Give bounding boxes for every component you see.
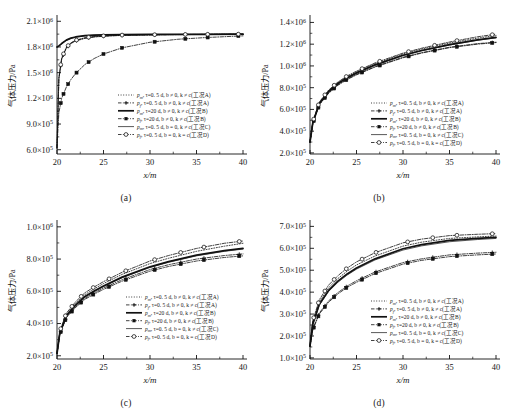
- data-marker: [374, 250, 378, 254]
- data-marker: [312, 117, 316, 121]
- legend-item-pf-D[interactable]: pf, τ=0. 5 d, b = 0, k = c(工况D): [371, 140, 462, 148]
- data-marker: [406, 262, 409, 265]
- data-marker: [345, 79, 348, 82]
- legend-item-pf-B[interactable]: pf, τ=20 d, b ≠ 0, k ≠ c(工况B): [371, 322, 459, 330]
- y-tick-label: 2.0×105: [279, 148, 306, 158]
- data-marker: [344, 75, 348, 79]
- x-axis-title: x/m: [143, 170, 157, 180]
- legend-label-pf-A: pf, τ=0. 5 d, b ≠ 0, k ≠ c(工况A): [136, 100, 209, 108]
- legend-label-pf-B: pf, τ=20 d, b ≠ 0, k ≠ c(工况B): [144, 318, 214, 326]
- data-marker: [120, 33, 124, 37]
- legend-item-pm-B[interactable]: pm, τ=20 d, b ≠ 0, k ≠ c(工况B): [371, 116, 461, 124]
- y-tick-label: 2.0×105: [26, 351, 53, 361]
- data-marker: [345, 286, 348, 289]
- data-marker: [237, 240, 241, 244]
- data-marker: [62, 52, 66, 56]
- legend-item-pm-A[interactable]: pm, τ=0. 5 d, b ≠ 0, k ≠ c(工况A): [371, 100, 464, 108]
- data-marker: [431, 257, 434, 260]
- legend-label-pf-B: pf, τ=20 d, b ≠ 0, k ≠ c(工况B): [136, 116, 206, 124]
- legend-item-pf-D[interactable]: pf, τ=0. 5 d, b = 0, k = c(工况D): [118, 132, 209, 140]
- data-marker: [433, 43, 437, 47]
- legend-item-pf-B[interactable]: pf, τ=20 d, b ≠ 0, k ≠ c(工况B): [118, 116, 206, 124]
- data-marker: [87, 35, 91, 39]
- x-tick-label: 40: [492, 363, 500, 372]
- legend-item-pf-A[interactable]: pf, τ=0. 5 d, b ≠ 0, k ≠ c(工况A): [118, 100, 209, 108]
- y-tick-label: 5.0×105: [279, 266, 306, 276]
- data-marker: [490, 33, 494, 37]
- legend-item-pm-A[interactable]: pm, τ=0. 5 d, b ≠ 0, k ≠ c(工况A): [126, 294, 219, 302]
- legend-item-pm-A[interactable]: pm, τ=0. 5 d, b ≠ 0, k ≠ c(工况A): [371, 298, 464, 306]
- subplot-d: 1.0×1052.0×1053.0×1054.0×1055.0×1056.0×1…: [253, 205, 505, 409]
- y-tick-label: 4.0×105: [279, 126, 306, 136]
- data-marker: [67, 83, 70, 86]
- y-tick-label: 2.1×106: [26, 17, 53, 27]
- legend-label-pf-A: pf, τ=0. 5 d, b ≠ 0, k ≠ c(工况A): [144, 302, 217, 310]
- data-marker: [316, 103, 320, 107]
- legend-item-pm-B[interactable]: pm, τ=20 d, b ≠ 0, k ≠ c(工况B): [118, 108, 208, 116]
- y-tick-label: 4.0×105: [26, 319, 53, 329]
- legend-item-pm-C[interactable]: pm, τ=0. 5 d, b = 0, k ≠ c(工况C): [371, 132, 464, 140]
- legend-marker-circle: [377, 339, 381, 343]
- data-marker: [179, 251, 183, 255]
- legend-item-pf-D[interactable]: pf, τ=0. 5 d, b = 0, k = c(工况D): [371, 338, 462, 346]
- legend-marker-circle: [124, 133, 128, 137]
- data-marker: [490, 232, 494, 236]
- legend-item-pm-C[interactable]: pm, τ=0. 5 d, b = 0, k ≠ c(工况C): [118, 124, 211, 132]
- legend-item-pm-B[interactable]: pm, τ=20 d, b ≠ 0, k ≠ c(工况B): [126, 310, 216, 318]
- data-marker: [80, 301, 83, 304]
- data-marker: [75, 38, 79, 42]
- legend-item-pf-A[interactable]: pf, τ=0. 5 d, b ≠ 0, k ≠ c(工况A): [371, 108, 462, 116]
- x-tick-label: 20: [306, 158, 314, 167]
- y-tick-label: 4.0×105: [279, 287, 306, 297]
- legend-marker-square: [132, 319, 135, 322]
- x-axis-title: x/m: [396, 170, 410, 180]
- x-tick-label: 40: [239, 363, 247, 372]
- subplot-b: 2.0×1054.0×1056.0×1058.0×1051.0×1061.2×1…: [253, 0, 505, 204]
- legend-item-pf-B[interactable]: pf, τ=20 d, b ≠ 0, k ≠ c(工况B): [371, 124, 459, 132]
- legend-item-pf-A[interactable]: pf, τ=0. 5 d, b ≠ 0, k ≠ c(工况A): [126, 302, 217, 310]
- data-marker: [153, 40, 156, 43]
- data-marker: [153, 268, 156, 271]
- x-tick-label: 25: [99, 363, 107, 372]
- x-tick-label: 30: [399, 158, 407, 167]
- legend: pm, τ=0. 5 d, b ≠ 0, k ≠ c(工况A)pf, τ=0. …: [118, 92, 211, 139]
- legend-item-pm-C[interactable]: pm, τ=0. 5 d, b = 0, k ≠ c(工况C): [371, 330, 464, 338]
- legend-item-pf-D[interactable]: pf, τ=0. 5 d, b = 0, k = c(工况D): [126, 334, 217, 342]
- y-tick-label: 9.0×105: [26, 119, 53, 129]
- data-marker: [184, 37, 187, 40]
- y-tick-label: 8.0×105: [26, 254, 53, 264]
- legend-label-pm-B: pm, τ=20 d, b ≠ 0, k ≠ c(工况B): [389, 314, 461, 322]
- data-marker: [455, 233, 459, 237]
- legend: pm, τ=0. 5 d, b ≠ 0, k ≠ c(工况A)pf, τ=0. …: [371, 298, 464, 345]
- data-marker: [107, 277, 111, 281]
- data-marker: [238, 255, 241, 258]
- x-tick-label: 20: [53, 363, 61, 372]
- data-marker: [317, 315, 320, 318]
- data-marker: [87, 61, 90, 64]
- legend-label-pm-C: pm, τ=0. 5 d, b = 0, k ≠ c(工况C): [389, 132, 464, 140]
- legend-label-pf-B: pf, τ=20 d, b ≠ 0, k ≠ c(工况B): [389, 124, 459, 132]
- legend-item-pf-A[interactable]: pf, τ=0. 5 d, b ≠ 0, k ≠ c(工况A): [371, 306, 462, 314]
- data-marker: [92, 293, 95, 296]
- legend-item-pf-B[interactable]: pf, τ=20 d, b ≠ 0, k ≠ c(工况B): [126, 318, 214, 326]
- y-tick-label: 1.2×106: [26, 94, 53, 104]
- y-axis-title: 气体压力/Pa: [7, 64, 17, 107]
- x-tick-label: 40: [492, 158, 500, 167]
- x-axis-title: x/m: [143, 375, 157, 385]
- legend-marker-cross: [124, 101, 128, 105]
- plot-area-a: 6.0×1059.0×1051.2×1061.5×1061.8×1062.1×1…: [0, 0, 252, 204]
- y-tick-label: 1.8×106: [26, 42, 53, 52]
- x-tick-label: 20: [53, 158, 61, 167]
- y-tick-label: 1.0×106: [279, 61, 306, 71]
- legend-marker-square: [377, 125, 380, 128]
- y-tick-label: 6.0×105: [26, 145, 53, 155]
- x-tick-label: 25: [99, 158, 107, 167]
- legend-label-pf-B: pf, τ=20 d, b ≠ 0, k ≠ c(工况B): [389, 322, 459, 330]
- legend-item-pm-B[interactable]: pm, τ=20 d, b ≠ 0, k ≠ c(工况B): [371, 314, 461, 322]
- x-tick-label: 30: [146, 158, 154, 167]
- data-marker: [236, 32, 240, 36]
- data-marker: [332, 278, 336, 282]
- legend-item-pm-C[interactable]: pm, τ=0. 5 d, b = 0, k ≠ c(工况C): [126, 326, 219, 334]
- legend-item-pm-A[interactable]: pm, τ=0. 5 d, b ≠ 0, k ≠ c(工况A): [118, 92, 211, 100]
- panel-label-b: (b): [253, 193, 505, 203]
